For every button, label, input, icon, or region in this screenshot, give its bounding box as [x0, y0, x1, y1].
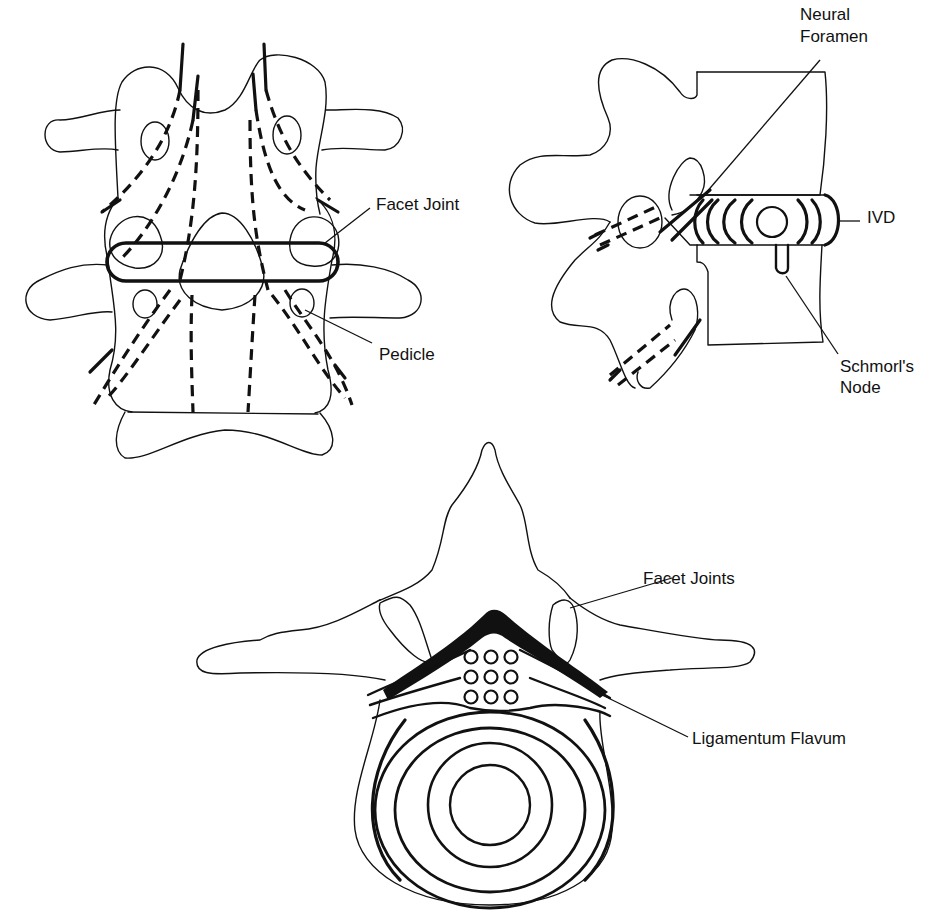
- neural-foramen-label-line1: Neural: [800, 4, 850, 25]
- axial-vertebra-outline: [197, 443, 755, 909]
- neural-foramen-leader: [705, 60, 820, 194]
- facet-joint-label: Facet Joint: [376, 194, 459, 215]
- cauda-equina-nerve-roots: [465, 651, 518, 704]
- ligamentum-flavum-leader: [600, 694, 688, 737]
- schmorls-node: [776, 245, 788, 273]
- schmorls-node-label-line1: Schmorl's: [840, 356, 914, 377]
- facet-joint-band: [107, 243, 338, 281]
- schmorls-node-label-line2: Node: [840, 377, 881, 398]
- ivd-label: IVD: [867, 207, 895, 228]
- disc-annulus-rings: [372, 712, 613, 908]
- ligamentum-flavum: [383, 610, 608, 700]
- pedicle-leader: [305, 310, 372, 343]
- nucleus-pulposus: [757, 207, 787, 237]
- posterior-nerve-roots: [90, 44, 352, 412]
- neural-foramen-label-line2: Foramen: [800, 26, 868, 47]
- posterior-vertebrae-outline: [26, 55, 421, 458]
- posterior-view-diagram: [0, 0, 939, 920]
- ligamentum-flavum-label: Ligamentum Flavum: [692, 728, 846, 749]
- lateral-vertebrae-outline: [509, 59, 838, 388]
- facet-joint-leader: [325, 208, 370, 243]
- pedicle-label: Pedicle: [379, 344, 435, 365]
- facet-joints-label: Facet Joints: [643, 568, 735, 589]
